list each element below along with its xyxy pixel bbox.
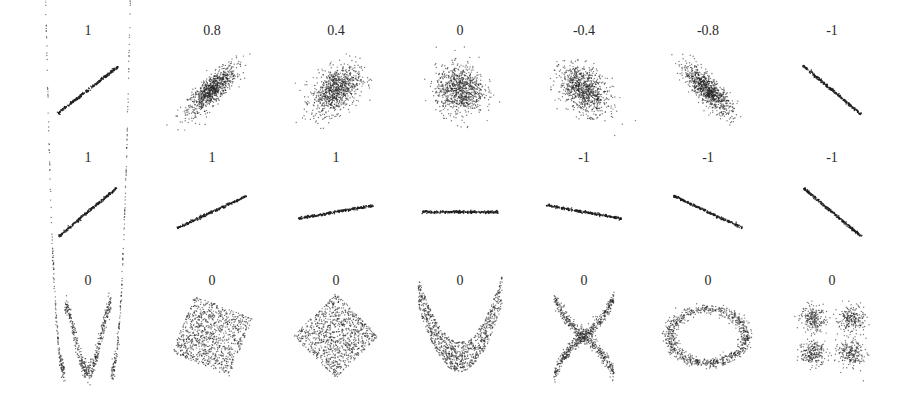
correlation-label: 1 (274, 150, 398, 166)
scatter-plot (770, 45, 894, 135)
scatter-plot (274, 291, 398, 381)
scatter-plot (646, 291, 770, 381)
scatter-plot (150, 45, 274, 135)
scatter-plot (522, 291, 646, 381)
correlation-label: 0 (274, 273, 398, 289)
correlation-label: -1 (646, 150, 770, 166)
scatter-plot (770, 172, 894, 252)
scatter-plot (770, 291, 894, 381)
correlation-label: -0.8 (646, 23, 770, 39)
scatter-plot (150, 291, 274, 381)
correlation-label: 0 (646, 273, 770, 289)
correlation-label: 0 (770, 273, 894, 289)
correlation-label: 1 (26, 23, 150, 39)
correlation-label: 1 (26, 150, 150, 166)
scatter-plot (522, 172, 646, 252)
correlation-label: 0.8 (150, 23, 274, 39)
scatter-plot (274, 172, 398, 252)
correlation-label: -0.4 (522, 23, 646, 39)
scatter-plot (398, 172, 522, 252)
scatter-plot (646, 172, 770, 252)
correlation-label: -1 (522, 150, 646, 166)
scatter-plot (26, 45, 150, 135)
scatter-plot (150, 172, 274, 252)
correlation-label: 0 (26, 273, 150, 289)
scatter-plot (26, 291, 150, 381)
scatter-plot (522, 45, 646, 135)
scatter-plot (274, 45, 398, 135)
correlation-label: 0 (398, 23, 522, 39)
correlation-label: -1 (770, 23, 894, 39)
scatter-plot (646, 45, 770, 135)
scatter-plot (398, 45, 522, 135)
correlation-label: 0.4 (274, 23, 398, 39)
scatter-plot (26, 172, 150, 252)
correlation-label: 0 (398, 273, 522, 289)
scatter-plot (398, 291, 522, 381)
correlation-label: 0 (522, 273, 646, 289)
correlation-label: 0 (150, 273, 274, 289)
correlation-label: -1 (770, 150, 894, 166)
correlation-label: 1 (150, 150, 274, 166)
